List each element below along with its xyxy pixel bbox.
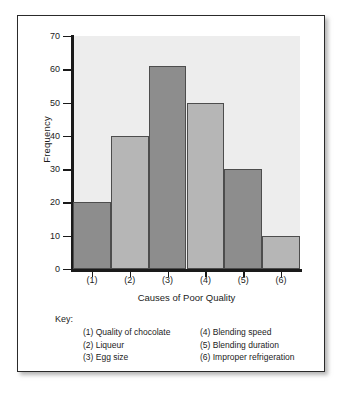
y-axis-tick-label: 10	[28, 231, 60, 241]
y-axis-tick-label: 30	[28, 164, 60, 174]
chart-key: Key: (1) Quality of chocolate(2) Liqueur…	[18, 314, 326, 372]
key-entry: (4) Blending speed	[200, 326, 322, 339]
x-axis-line	[71, 269, 302, 272]
y-axis-tick-label: 0	[28, 264, 60, 274]
y-axis-tick	[63, 202, 71, 203]
figure-frame: Frequency 010203040506070 (1)(2)(3)(4)(5…	[17, 15, 325, 372]
key-title: Key:	[55, 314, 73, 324]
x-axis-tick-label: (3)	[151, 275, 185, 285]
y-axis-tick	[63, 236, 71, 237]
x-axis-tick-label: (4)	[188, 275, 222, 285]
bar	[187, 103, 225, 269]
x-axis-tick-label: (6)	[264, 275, 298, 285]
key-column-left: (1) Quality of chocolate(2) Liqueur(3) E…	[83, 326, 201, 364]
y-axis-tick	[63, 269, 71, 270]
y-axis-tick-label: 40	[28, 131, 60, 141]
y-axis-tick-label: 20	[28, 197, 60, 207]
y-axis-tick-label: 50	[28, 98, 60, 108]
bar-chart-figure: Frequency 010203040506070 (1)(2)(3)(4)(5…	[18, 16, 326, 373]
bar	[111, 136, 149, 269]
key-entry: (1) Quality of chocolate	[83, 326, 201, 339]
x-axis-tick-label: (5)	[226, 275, 260, 285]
y-axis-tick-label: 70	[28, 31, 60, 41]
key-entry: (3) Egg size	[83, 351, 201, 364]
key-entry: (6) Improper refrigeration	[200, 351, 322, 364]
y-axis-tick	[63, 36, 71, 37]
y-axis-tick	[63, 136, 71, 137]
y-axis-tick-label: 60	[28, 64, 60, 74]
bar	[262, 236, 300, 269]
key-entry: (5) Blending duration	[200, 339, 322, 352]
bar	[149, 66, 187, 269]
x-axis-tick-label: (1)	[75, 275, 109, 285]
x-axis-tick-label: (2)	[113, 275, 147, 285]
bar	[224, 169, 262, 269]
y-axis-tick	[63, 169, 71, 170]
y-axis-tick	[63, 103, 71, 104]
bar	[73, 202, 111, 269]
key-entry: (2) Liqueur	[83, 339, 201, 352]
y-axis-tick	[63, 69, 71, 70]
key-column-right: (4) Blending speed(5) Blending duration(…	[200, 326, 322, 364]
x-axis-title: Causes of Poor Quality	[73, 292, 300, 303]
